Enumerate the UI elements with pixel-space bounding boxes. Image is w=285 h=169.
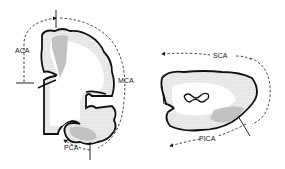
hemisphere-panel: ACA MCA PCA — [15, 10, 134, 160]
label-aca: ACA — [15, 47, 30, 54]
label-pca: PCA — [64, 144, 79, 151]
vascular-territories-figure: ACA MCA PCA SCA PICA — [0, 0, 285, 169]
label-mca: MCA — [118, 77, 134, 84]
label-pica: PICA — [199, 135, 216, 142]
label-sca: SCA — [213, 52, 228, 59]
cerebellum-panel: SCA PICA — [161, 52, 270, 146]
diagram-canvas: ACA MCA PCA SCA PICA — [0, 0, 285, 169]
